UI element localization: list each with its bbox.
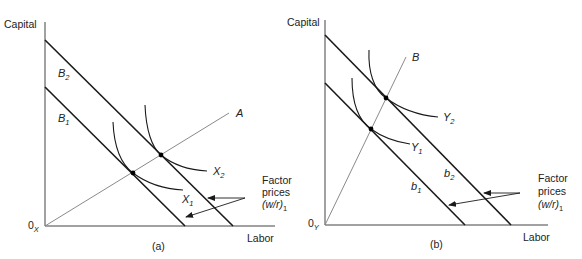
isoquant-y1: [352, 78, 410, 144]
y-axis-label: Capital: [4, 18, 37, 30]
svg-text:Factor: Factor: [262, 174, 292, 186]
isocost-label-b1: B1: [58, 112, 70, 127]
panel-a: Capital Labor (a) 0X A B2 B1 X2 X1 Facto…: [4, 18, 292, 252]
tangency-point-x1: [131, 171, 136, 176]
isoquant-label-x1: X1: [181, 193, 194, 208]
svg-text:Factor: Factor: [538, 172, 568, 184]
diagram-canvas: Capital Labor (a) 0X A B2 B1 X2 X1 Facto…: [0, 0, 582, 259]
svg-text:(w/r)1: (w/r)1: [538, 198, 563, 213]
isocost-label-b2: B2: [58, 67, 70, 82]
svg-text:prices: prices: [262, 186, 290, 198]
origin-label: 0Y: [308, 217, 320, 232]
tangency-point-y2: [384, 96, 389, 101]
isoquant-label-y1: Y1: [411, 141, 423, 156]
panel-caption: (b): [430, 238, 443, 250]
y-axis-label: Capital: [287, 16, 320, 28]
panel-caption: (a): [152, 240, 165, 252]
isoquant-y2: [369, 50, 438, 117]
arrow-to-b1: [186, 198, 245, 217]
origin-label: 0X: [28, 219, 40, 234]
ray-label: B: [412, 51, 419, 63]
expansion-ray-b: [325, 57, 406, 225]
isocost-line-b2: [45, 40, 233, 226]
x-axis-label: Labor: [523, 231, 550, 243]
isocost-line-b2: [325, 35, 511, 225]
tangency-point-x2: [159, 153, 164, 158]
ray-label: A: [235, 107, 243, 119]
factor-prices-annotation: Factor prices (w/r)1: [262, 174, 292, 213]
isocost-label-b2: b2: [444, 167, 455, 182]
svg-text:prices: prices: [538, 185, 566, 197]
factor-prices-annotation: Factor prices (w/r)1: [538, 172, 568, 213]
isoquant-x1: [113, 122, 183, 190]
svg-text:(w/r)1: (w/r)1: [262, 198, 287, 213]
isoquant-label-y2: Y2: [443, 111, 455, 126]
tangency-point-y1: [369, 127, 374, 132]
isoquant-label-x2: X2: [212, 165, 225, 180]
arrow-to-b1: [449, 193, 520, 205]
isocost-line-b1: [45, 87, 185, 226]
isoquant-x2: [145, 105, 207, 171]
panel-b: Capital Labor (b) 0Y B b2 b1 Y2 Y1 Facto…: [287, 16, 568, 250]
x-axis-label: Labor: [247, 232, 274, 244]
isocost-label-b1: b1: [411, 180, 421, 195]
